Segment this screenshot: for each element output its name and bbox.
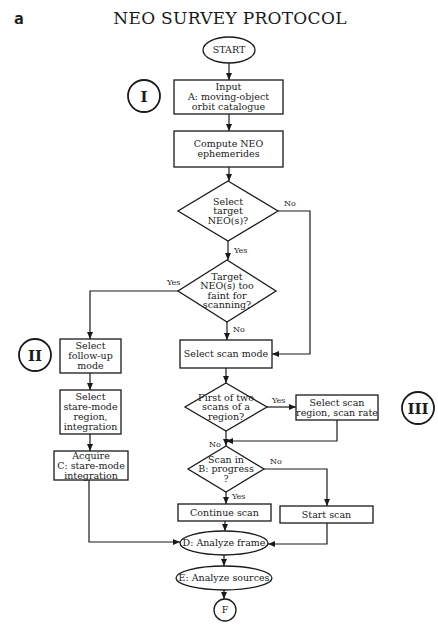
node-text: scanning?	[203, 299, 251, 310]
edge-label: No	[209, 440, 221, 449]
edge-label: Yes	[271, 396, 285, 405]
arrow-line	[272, 211, 310, 354]
node-in-progress: Scan inB: progress?	[188, 446, 264, 492]
edge-scan-region-to-in-progress	[226, 420, 337, 441]
node-follow-up: Selectfollow-upmode	[60, 339, 121, 373]
node-text: Start scan	[302, 509, 351, 520]
panel-label: a	[14, 9, 24, 28]
edge-label: Yes	[166, 278, 180, 287]
node-text: integration	[64, 421, 118, 432]
node-connector-f: F	[214, 599, 236, 621]
node-text: F	[222, 604, 229, 615]
node-text: E: Analyze sources	[179, 572, 270, 583]
edge-first-scan-to-scan-region: Yes	[267, 396, 296, 407]
edge-select-target-to-too-faint: Yes	[228, 241, 247, 260]
node-scan-region: Select scanregion, scan rate	[296, 395, 378, 420]
roman-numeral: II	[28, 347, 42, 365]
node-stare-region: Selectstare-moderegion,integration	[60, 390, 121, 434]
node-start: START	[203, 37, 255, 63]
node-start-scan: Start scan	[280, 506, 373, 523]
node-text: region, scan rate	[296, 407, 378, 418]
node-too-faint: TargetNEO(s) toofaint forscanning?	[178, 260, 276, 322]
section-marker-I: I	[128, 80, 160, 112]
section-marker-II: II	[19, 339, 51, 371]
flowchart: a NEO SURVEY PROTOCOL YesNoYesNoYesNoYes…	[0, 0, 438, 636]
node-continue: Continue scan	[178, 504, 271, 521]
node-text: ephemerides	[197, 148, 259, 159]
node-text: ?	[223, 473, 228, 484]
node-compute: Compute NEOephemerides	[174, 131, 283, 167]
node-first-scan: First of twoscans of aregion?	[185, 383, 267, 431]
node-text: NEO(s)?	[208, 215, 248, 226]
node-scan-mode: Select scan mode	[180, 340, 272, 368]
node-text: D: Analyze frame	[183, 537, 266, 548]
arrow-line	[226, 420, 337, 441]
edge-too-faint-to-scan-mode: No	[227, 322, 245, 340]
arrow-line	[89, 480, 180, 542]
edge-too-faint-to-follow-up: Yes	[90, 278, 180, 339]
edge-label: Yes	[231, 492, 245, 501]
edge-acquire-to-analyze-frame	[89, 480, 180, 542]
edge-in-progress-to-continue: Yes	[226, 492, 245, 504]
section-marker-III: III	[402, 392, 434, 424]
edge-label: No	[284, 199, 296, 208]
arrow-line	[90, 291, 178, 339]
node-text: region?	[208, 411, 244, 422]
edge-select-target-to-scan-mode: No	[272, 199, 310, 354]
node-select-target: SelecttargetNEO(s)?	[178, 181, 278, 241]
node-analyze-sources: E: Analyze sources	[176, 566, 272, 590]
nodes: STARTInputA: moving-objectorbit catalogu…	[54, 37, 378, 621]
node-text: integration	[64, 470, 118, 481]
edge-first-scan-to-in-progress: No	[209, 431, 226, 449]
node-text: Continue scan	[190, 507, 259, 518]
node-text: orbit catalogue	[192, 101, 266, 112]
roman-numeral: I	[140, 88, 147, 106]
node-text: mode	[77, 360, 104, 371]
diagram-title: NEO SURVEY PROTOCOL	[113, 8, 347, 28]
node-acquire: AcquireC: stare-modeintegration	[54, 450, 128, 481]
edge-label: Yes	[233, 246, 247, 255]
arrow-line	[264, 469, 327, 506]
edge-in-progress-to-start-scan: No	[264, 457, 327, 506]
edge-label: No	[270, 457, 282, 466]
arrow-line	[268, 523, 327, 544]
edge-start-scan-to-analyze-frame	[268, 523, 327, 544]
node-analyze-frame: D: Analyze frame	[180, 531, 268, 555]
node-input: InputA: moving-objectorbit catalogue	[174, 80, 283, 114]
node-text: Select scan mode	[184, 348, 269, 359]
node-text: START	[213, 44, 246, 55]
roman-numeral: III	[407, 400, 428, 418]
edge-label: No	[233, 325, 245, 334]
